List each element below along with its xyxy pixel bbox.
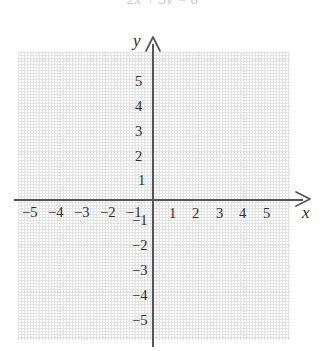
tick-label-x: 3: [216, 206, 223, 221]
tick-label-x: 5: [263, 206, 270, 221]
tick-label-y: 1: [138, 173, 145, 188]
tick-label-y: 5: [135, 74, 142, 89]
tick-label-y: −2: [132, 238, 147, 253]
arrow-up-icon: [143, 34, 163, 54]
tick-label-y: −5: [132, 313, 147, 328]
grid-lines: [18, 52, 290, 340]
tick-label-x: 2: [192, 206, 199, 221]
tick-label-x: −4: [48, 205, 63, 220]
tick-label-y: −1: [132, 213, 147, 228]
tick-label-y: 2: [135, 149, 142, 164]
y-axis-label: y: [133, 31, 141, 51]
tick-label-x: 4: [239, 206, 246, 221]
tick-label-x: 1: [169, 206, 176, 221]
x-axis-line: [14, 199, 303, 201]
tick-label-y: 3: [135, 124, 142, 139]
tick-label-x: −5: [22, 205, 37, 220]
tick-label-y: −3: [132, 263, 147, 278]
tick-label-y: −4: [132, 288, 147, 303]
coordinate-plane: x y −5−4−3−2−11234554321−1−2−3−4−5: [0, 0, 325, 351]
tick-label-y: 4: [135, 99, 142, 114]
y-axis-line: [152, 44, 154, 347]
x-axis-label: x: [302, 203, 310, 223]
tick-label-x: −3: [74, 205, 89, 220]
tick-label-x: −2: [100, 205, 115, 220]
